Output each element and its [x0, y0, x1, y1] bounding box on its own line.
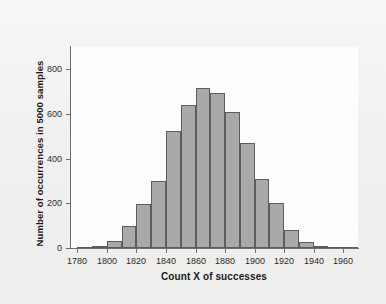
- x-axis-line: [70, 248, 359, 249]
- histogram-bar: [77, 247, 92, 248]
- histogram-bar: [343, 247, 358, 248]
- x-axis-tick: [77, 249, 78, 253]
- histogram-bars: [70, 47, 358, 248]
- y-axis-tick: [66, 248, 71, 249]
- x-axis-tick: [196, 249, 197, 253]
- x-axis-tick: [343, 249, 344, 253]
- histogram-bar: [328, 247, 343, 248]
- chart-page: 0200400600800 17801800182018401860188019…: [0, 0, 386, 304]
- histogram-bar: [240, 143, 255, 248]
- x-axis-tick: [284, 249, 285, 253]
- histogram-bar: [314, 246, 329, 248]
- x-axis-tick: [314, 249, 315, 253]
- x-axis-title: Count X of successes: [70, 271, 358, 282]
- histogram-bar: [284, 230, 299, 248]
- histogram-bar: [255, 179, 270, 248]
- histogram-bar: [166, 131, 181, 248]
- y-axis-title: Number of occurrences in 5000 samples: [34, 54, 45, 254]
- histogram-bar: [225, 112, 240, 248]
- x-axis-tick: [136, 249, 137, 253]
- histogram-bar: [269, 203, 284, 248]
- x-axis-tick: [107, 249, 108, 253]
- histogram-bar: [181, 105, 196, 248]
- x-axis-tick: [225, 249, 226, 253]
- x-axis-tick: [166, 249, 167, 253]
- histogram-bar: [210, 93, 225, 248]
- histogram-bar: [151, 181, 166, 248]
- x-axis-tick-label: 1960: [325, 256, 361, 266]
- histogram-bar: [299, 242, 314, 248]
- histogram-bar: [136, 204, 151, 248]
- histogram-bar: [107, 241, 122, 248]
- x-axis-tick: [255, 249, 256, 253]
- histogram-bar: [122, 226, 137, 248]
- histogram-bar: [196, 88, 211, 248]
- histogram-bar: [92, 246, 107, 248]
